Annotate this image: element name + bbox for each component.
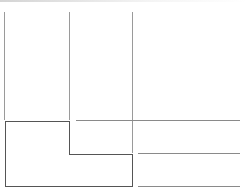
outline-right — [132, 154, 133, 187]
column-divider-right — [132, 12, 133, 153]
outline-top — [5, 121, 69, 122]
row-line-3 — [138, 186, 240, 187]
column-divider-left — [4, 12, 5, 120]
top-border — [0, 0, 248, 2]
outline-bottom — [5, 186, 133, 187]
outline-inner-vertical — [69, 121, 70, 154]
column-divider-middle — [69, 12, 70, 120]
outline-step — [69, 154, 133, 155]
row-line-2 — [138, 153, 240, 154]
row-line-1 — [76, 120, 240, 121]
outline-left — [5, 121, 6, 187]
